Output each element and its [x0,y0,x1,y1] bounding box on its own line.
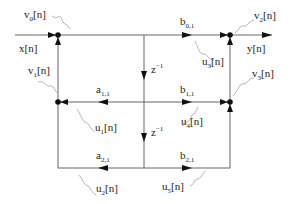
squiggle-u2 [79,175,96,195]
label-u5: u5[n] [162,180,184,195]
arrow-up-icon [227,104,233,112]
sum-node-middle-left [55,99,61,105]
squiggle-v2 [235,20,254,33]
signal-flow-diagram: v0[n] x[n] v1[n] b0,1 v2[n] y[n] u3[n] v… [0,0,292,204]
label-u4: u4[n] [181,115,203,130]
label-v1: v1[n] [28,64,50,79]
label-input-signal: x[n] [19,42,37,54]
squiggle-v3 [233,78,254,96]
arrow-up-icon [227,37,233,45]
label-v2: v2[n] [254,9,276,24]
label-u3: u3[n] [202,55,224,70]
label-coef-b11: b1,1 [180,83,195,98]
label-output-signal: y[n] [247,42,265,54]
arrow-left-icon [60,99,68,105]
label-u1: u1[n] [95,121,117,136]
label-coef-a21: a2,1 [96,149,110,164]
wires [15,35,272,168]
label-coef-b01: b0,1 [180,15,195,30]
label-delay-1: z−1 [151,62,164,75]
arrow-up-icon [55,37,61,45]
squiggle-v1 [38,81,58,94]
arrow-right-icon [182,32,192,38]
label-u2: u2[n] [96,182,118,197]
arrow-right-icon [182,165,192,171]
squiggle-v0 [52,16,70,29]
sum-node-top-left [55,32,61,38]
squiggle-u1 [77,109,95,132]
arrowheads [48,32,272,171]
sum-node-top-right [227,32,233,38]
label-coef-a11: a1,1 [96,83,110,98]
arrow-down-icon [141,133,147,142]
arrow-left-icon [98,165,108,171]
arrow-right-icon [262,32,272,38]
arrow-right-icon [182,99,192,105]
label-v0: v0[n] [24,8,46,23]
arrow-down-icon [141,71,147,80]
arrow-right-icon [220,32,228,38]
arrow-right-icon [220,99,228,105]
sum-node-middle-right [227,99,233,105]
label-v3: v3[n] [252,67,274,82]
arrow-left-icon [98,99,108,105]
label-coef-b21: b2,1 [180,149,195,164]
label-delay-2: z−1 [151,125,164,138]
arrow-right-icon [48,32,56,38]
squiggle-u5 [190,171,205,186]
